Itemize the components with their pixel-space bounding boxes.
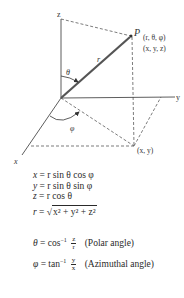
- eq6-inverse: −1: [60, 258, 66, 264]
- theta-label: θ: [66, 68, 70, 77]
- phi-label: φ: [70, 124, 75, 133]
- eq6-note: (Azimuthal angle): [85, 259, 154, 269]
- phi-arc: [50, 112, 79, 120]
- eq4-lhs: r: [33, 207, 37, 217]
- projection-lines: [31, 19, 161, 146]
- equation-z: z = r cos θ: [33, 192, 72, 202]
- z-axis-label: z: [57, 10, 61, 19]
- spherical-coords-label: (r, θ, φ): [143, 33, 166, 42]
- radius-vector: [61, 37, 130, 98]
- eq5-inverse: −1: [60, 237, 66, 243]
- spherical-coordinate-diagram: z y x P (r, θ, φ) (x, y, z) r θ φ (x, y): [0, 0, 184, 298]
- eq6-fraction: yx: [71, 257, 77, 272]
- eq4-radicand: x² + y² + z²: [52, 205, 96, 217]
- eq6-func: = tan: [41, 259, 60, 269]
- eq3-lhs: z: [33, 191, 37, 201]
- cartesian-coords-label: (x, y, z): [143, 44, 166, 53]
- eq5-lhs: θ: [33, 238, 38, 248]
- point-p: [130, 35, 133, 38]
- eq5-note: (Polar angle): [85, 238, 134, 248]
- eq5-func: = cos: [40, 238, 60, 248]
- x-axis-label: x: [13, 157, 18, 166]
- x-axis: [22, 98, 61, 155]
- point-p-label: P: [133, 27, 140, 38]
- eq6-den: x: [71, 265, 77, 272]
- equation-phi: φ = tan−1 yx (Azimuthal angle): [33, 257, 154, 272]
- eq6-lhs: φ: [33, 259, 38, 269]
- eq5-fraction: zr: [71, 236, 76, 251]
- eq2-rhs: = r sin θ sin φ: [40, 181, 93, 191]
- equation-x: x = r sin θ cos φ: [33, 171, 94, 181]
- eq3-rhs: = r cos θ: [39, 191, 72, 201]
- eq2-lhs: y: [33, 181, 37, 191]
- eq5-den: r: [71, 244, 76, 251]
- equation-r: r = √x² + y² + z²: [33, 208, 97, 218]
- projection-label: (x, y): [137, 146, 154, 155]
- equation-theta: θ = cos−1 zr (Polar angle): [33, 236, 134, 251]
- y-axis-label: y: [176, 93, 180, 102]
- y-axis: [61, 97, 175, 98]
- eq1-rhs: = r sin θ cos φ: [40, 170, 94, 180]
- eq4-equals: =: [39, 207, 44, 217]
- eq1-lhs: x: [33, 170, 37, 180]
